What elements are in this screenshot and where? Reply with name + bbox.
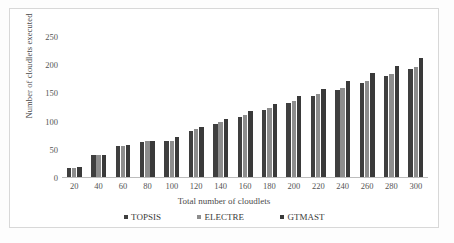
x-tick-label: 140 bbox=[208, 181, 232, 193]
legend-item-electre[interactable]: ELECTRE bbox=[197, 212, 244, 222]
bar-group bbox=[208, 37, 232, 178]
bar-topsis bbox=[189, 131, 193, 178]
bar-topsis bbox=[311, 96, 315, 178]
plot-area bbox=[62, 37, 428, 178]
legend-swatch-icon bbox=[124, 215, 129, 220]
bar-gtmast bbox=[297, 96, 301, 178]
x-axis-title: Total number of cloudlets bbox=[10, 196, 438, 206]
x-tick-label: 220 bbox=[306, 181, 330, 193]
x-tick-label: 260 bbox=[355, 181, 379, 193]
bar-gtmast bbox=[175, 137, 179, 178]
legend-label: TOPSIS bbox=[131, 212, 161, 222]
x-axis-line bbox=[62, 177, 428, 178]
legend-item-topsis[interactable]: TOPSIS bbox=[124, 212, 161, 222]
bar-electre bbox=[292, 101, 296, 178]
bar-group bbox=[184, 37, 208, 178]
bar-group bbox=[282, 37, 306, 178]
bar-gtmast bbox=[102, 155, 106, 178]
bar-electre bbox=[340, 88, 344, 178]
bar-gtmast bbox=[346, 81, 350, 178]
bar-electre bbox=[365, 81, 369, 178]
y-tick-label: 150 bbox=[24, 88, 58, 98]
legend-item-gtmast[interactable]: GTMAST bbox=[280, 212, 325, 222]
bar-group bbox=[257, 37, 281, 178]
bar-topsis bbox=[262, 110, 266, 178]
legend-swatch-icon bbox=[280, 215, 285, 220]
chart-legend: TOPSISELECTREGTMAST bbox=[10, 212, 438, 222]
bar-topsis bbox=[335, 90, 339, 178]
bar-electre bbox=[170, 141, 174, 178]
bar-gtmast bbox=[321, 89, 325, 178]
bar-gtmast bbox=[248, 111, 252, 178]
x-tick-label: 300 bbox=[404, 181, 428, 193]
x-tick-label: 280 bbox=[379, 181, 403, 193]
bar-gtmast bbox=[199, 127, 203, 178]
x-tick-label: 80 bbox=[135, 181, 159, 193]
bar-topsis bbox=[360, 83, 364, 178]
bar-group bbox=[306, 37, 330, 178]
y-axis-ticks: 250200150100500 bbox=[24, 9, 58, 227]
bar-electre bbox=[414, 67, 418, 178]
bar-electre bbox=[389, 74, 393, 178]
bar-groups bbox=[62, 37, 428, 178]
bar-gtmast bbox=[126, 145, 130, 178]
y-tick-label: 250 bbox=[24, 32, 58, 42]
bar-topsis bbox=[164, 141, 168, 178]
x-tick-label: 180 bbox=[257, 181, 281, 193]
bar-topsis bbox=[384, 76, 388, 178]
bar-group bbox=[111, 37, 135, 178]
x-tick-label: 200 bbox=[282, 181, 306, 193]
bar-electre bbox=[121, 146, 125, 178]
bar-electre bbox=[243, 115, 247, 178]
bar-topsis bbox=[408, 69, 412, 178]
x-tick-label: 20 bbox=[62, 181, 86, 193]
x-tick-label: 60 bbox=[111, 181, 135, 193]
x-tick-label: 100 bbox=[160, 181, 184, 193]
legend-label: ELECTRE bbox=[204, 212, 244, 222]
bar-gtmast bbox=[150, 141, 154, 178]
bar-gtmast bbox=[395, 66, 399, 178]
y-tick-label: 0 bbox=[24, 173, 58, 183]
bar-gtmast bbox=[419, 58, 423, 178]
bar-topsis bbox=[140, 142, 144, 178]
bar-electre bbox=[218, 122, 222, 178]
legend-label: GTMAST bbox=[287, 212, 324, 222]
x-axis-ticks: 2040608010012014016018020022024026028030… bbox=[62, 181, 428, 193]
bar-group bbox=[86, 37, 110, 178]
y-tick-label: 50 bbox=[24, 145, 58, 155]
y-tick-label: 200 bbox=[24, 60, 58, 70]
bar-topsis bbox=[91, 155, 95, 178]
bar-topsis bbox=[213, 124, 217, 178]
bar-group bbox=[233, 37, 257, 178]
bar-gtmast bbox=[370, 73, 374, 178]
bar-group bbox=[160, 37, 184, 178]
bar-gtmast bbox=[273, 104, 277, 178]
x-tick-label: 40 bbox=[86, 181, 110, 193]
x-tick-label: 240 bbox=[330, 181, 354, 193]
x-tick-label: 160 bbox=[233, 181, 257, 193]
chart-frame: Number of cloudlets executed 25020015010… bbox=[9, 8, 439, 228]
bar-electre bbox=[145, 141, 149, 178]
bar-electre bbox=[194, 129, 198, 178]
bar-topsis bbox=[238, 117, 242, 178]
bar-group bbox=[404, 37, 428, 178]
x-tick-label: 120 bbox=[184, 181, 208, 193]
bar-electre bbox=[96, 155, 100, 178]
legend-swatch-icon bbox=[197, 215, 202, 220]
bar-electre bbox=[316, 94, 320, 178]
bar-group bbox=[135, 37, 159, 178]
y-tick-label: 100 bbox=[24, 117, 58, 127]
bar-group bbox=[379, 37, 403, 178]
bar-topsis bbox=[286, 103, 290, 178]
bar-electre bbox=[267, 108, 271, 178]
chart-figure: Number of cloudlets executed 25020015010… bbox=[0, 0, 454, 243]
bar-group bbox=[355, 37, 379, 178]
bar-gtmast bbox=[224, 119, 228, 178]
bar-group bbox=[62, 37, 86, 178]
bar-group bbox=[330, 37, 354, 178]
bar-topsis bbox=[116, 146, 120, 178]
